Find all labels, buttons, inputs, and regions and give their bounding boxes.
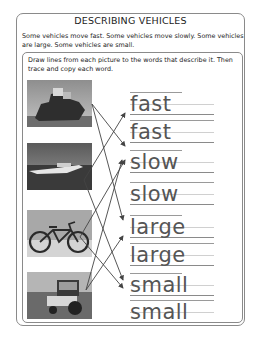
line-ship-large	[92, 104, 123, 220]
line-tractor-slow	[86, 160, 122, 290]
connection-lines	[0, 0, 261, 337]
line-bicycle-slow	[80, 160, 125, 237]
